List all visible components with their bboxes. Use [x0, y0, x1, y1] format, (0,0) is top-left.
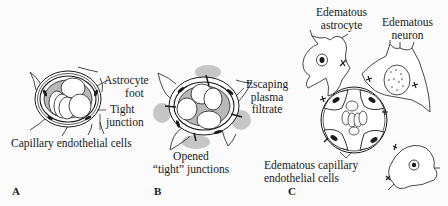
label-line: Edematous capillary: [264, 159, 358, 172]
panel-letter-c: C: [288, 185, 296, 197]
panel-c: Edematous astrocyte Edematous neuron Ede…: [290, 0, 448, 206]
label-line: neuron: [382, 29, 433, 42]
label-line: junction: [106, 116, 144, 129]
label-line: Tight: [106, 103, 144, 116]
label-edematous-capillary-endothelial-cells: Edematous capillary endothelial cells: [264, 159, 358, 184]
label-line: Edematous: [382, 16, 433, 29]
label-capillary-endothelial-cells: Capillary endothelial cells: [11, 137, 132, 150]
panel-a: Astrocyte foot Tight junction Capillary …: [0, 0, 150, 206]
label-line: astrocyte: [316, 19, 367, 32]
label-line: Opened: [108, 150, 274, 163]
label-edematous-astrocyte: Edematous astrocyte: [316, 6, 367, 31]
label-line: filtrate: [246, 103, 288, 116]
label-line: endothelial cells: [264, 172, 358, 185]
label-opened-tight-junctions: Opened “tight” junctions: [144, 150, 274, 175]
label-tight-junction: Tight junction: [106, 103, 144, 128]
label-line: Edematous: [316, 6, 367, 19]
panel-letter-a: A: [12, 185, 20, 197]
label-line: “tight” junctions: [108, 163, 274, 176]
panel-letter-b: B: [154, 185, 161, 197]
label-edematous-neuron: Edematous neuron: [382, 16, 433, 41]
label-line: plasma: [246, 91, 288, 104]
label-line: Escaping: [246, 78, 288, 91]
label-escaping-plasma-filtrate: Escaping plasma filtrate: [246, 78, 288, 116]
